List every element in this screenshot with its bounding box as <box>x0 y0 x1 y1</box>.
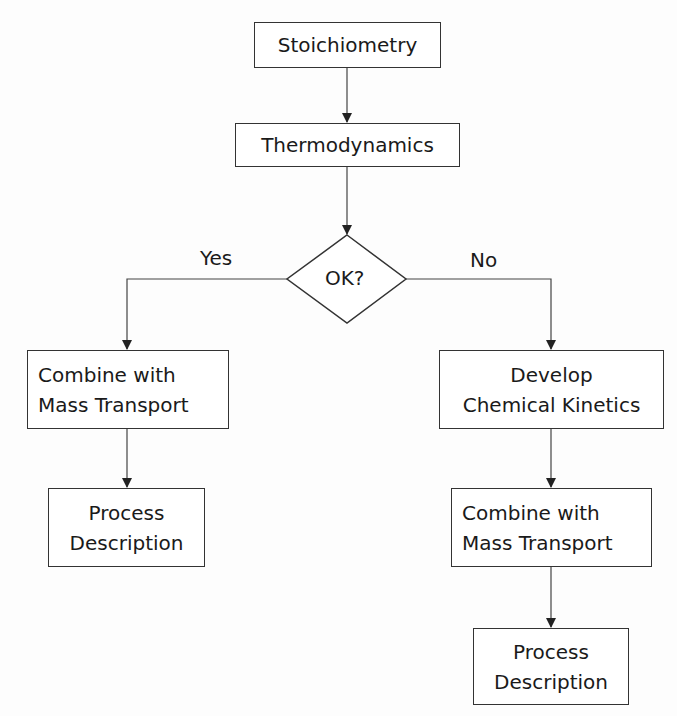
node-no-develop-chemical-kinetics: Develop Chemical Kinetics <box>439 350 664 429</box>
node-label: Stoichiometry <box>278 30 417 60</box>
node-no-combine-mass-transport: Combine with Mass Transport <box>451 488 652 567</box>
node-label-line: Develop <box>463 360 641 390</box>
node-no-process-description: Process Description <box>473 628 629 705</box>
flowchart-canvas: Stoichiometry Thermodynamics OK? Yes No … <box>0 0 677 716</box>
node-yes-combine-mass-transport: Combine with Mass Transport <box>27 350 229 429</box>
decision-label: OK? <box>325 266 364 290</box>
node-label-line: Process <box>70 498 184 528</box>
node-yes-process-description: Process Description <box>48 488 205 567</box>
node-label-line: Description <box>70 528 184 558</box>
edge-label-no: No <box>470 248 497 272</box>
node-stoichiometry: Stoichiometry <box>254 22 441 68</box>
node-label-line: Combine with <box>462 498 613 528</box>
node-label-line: Combine with <box>38 360 189 390</box>
node-label-line: Process <box>494 637 608 667</box>
node-label: Thermodynamics <box>261 130 434 160</box>
node-label-line: Mass Transport <box>38 390 189 420</box>
node-thermodynamics: Thermodynamics <box>235 123 460 167</box>
node-label-line: Chemical Kinetics <box>463 390 641 420</box>
edge-label-yes: Yes <box>200 246 232 270</box>
node-label-line: Description <box>494 667 608 697</box>
node-label-line: Mass Transport <box>462 528 613 558</box>
